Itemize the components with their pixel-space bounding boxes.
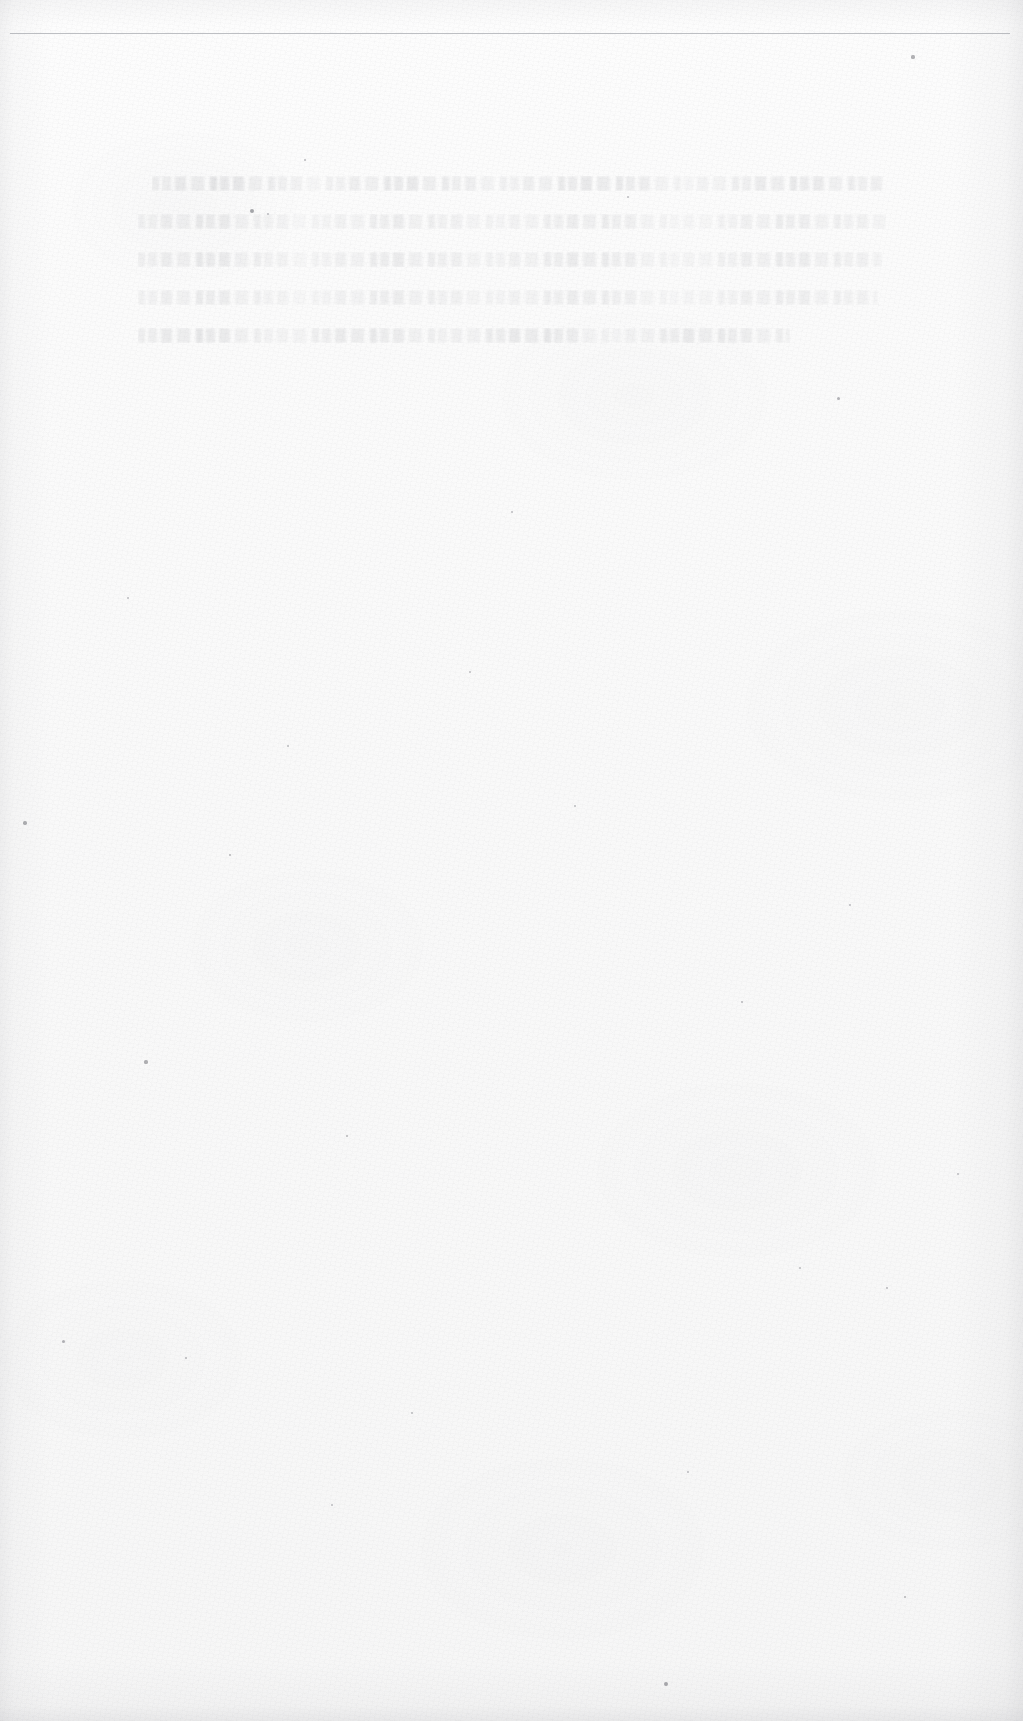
paper-speck [23,821,26,824]
paper-speck [144,1060,147,1063]
paper-speck [511,511,513,513]
paper-speck [799,1267,801,1269]
paper-speck [267,213,269,215]
paper-speck [957,1173,959,1175]
paper-speck [741,1001,743,1003]
paper-speck [886,1287,888,1289]
paper-speck [849,904,851,906]
paper-speck [837,397,840,400]
speck-layer [0,0,1023,1721]
paper-speck [687,1471,689,1473]
paper-speck [304,159,306,161]
paper-speck [250,209,254,213]
scanned-document-page: Ghost impressions of approximately five … [0,0,1023,1721]
paper-speck [904,1596,907,1599]
paper-speck [469,671,471,673]
paper-speck [62,1340,65,1343]
paper-speck [664,1682,668,1686]
paper-speck [287,745,289,747]
paper-speck [346,1135,349,1138]
paper-speck [185,1357,188,1360]
paper-speck [229,854,232,857]
paper-speck [574,805,576,807]
paper-speck [127,597,129,599]
paper-speck [911,55,914,58]
paper-speck [411,1412,413,1414]
paper-speck [627,196,629,198]
paper-speck [331,1504,333,1506]
